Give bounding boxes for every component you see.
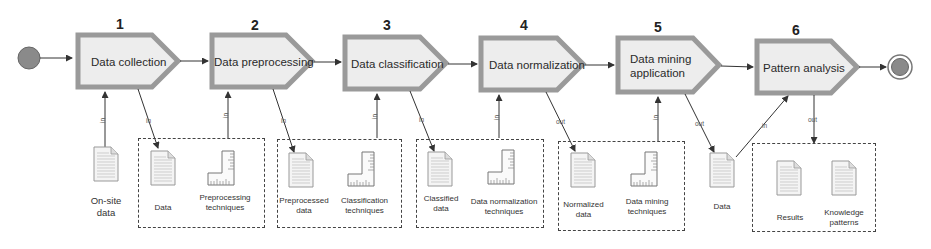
step-5-label-line2: application	[630, 66, 691, 80]
knowledge-patterns-caption: Knowledge patterns	[823, 208, 865, 228]
knowledge-patterns-line1: Knowledge	[823, 208, 865, 218]
start-circle-icon	[18, 47, 40, 69]
in-label-step4: in	[493, 115, 500, 120]
onsite-data-document-icon	[94, 147, 118, 181]
onsite-data-line1: On-site	[84, 195, 128, 207]
step-1-number: 1	[110, 16, 130, 32]
onsite-data-line2: data	[84, 207, 128, 219]
preprocessing-techniques-line2: techniques	[195, 203, 255, 213]
normalized-data-line2: data	[561, 210, 606, 220]
in-label-step1-out: in	[146, 117, 151, 124]
mining-techniques-line2: techniques	[622, 207, 672, 217]
in-label-step6: in	[762, 122, 767, 129]
step-2-number: 2	[245, 17, 265, 33]
data-caption: Data	[143, 203, 183, 213]
step-6-label: Pattern analysis	[763, 61, 845, 75]
in-label-step2-out: in	[281, 117, 286, 124]
step-4-number: 4	[514, 17, 534, 33]
preprocessed-data-line1: Preprocessed	[278, 196, 330, 206]
mined-data-caption: Data	[705, 202, 739, 212]
normalization-techniques-line2: techniques	[467, 207, 541, 217]
mined-data-document-icon	[710, 153, 734, 187]
classified-data-line1: Classified	[421, 194, 461, 204]
out-label-step6: out	[808, 116, 817, 123]
group-box-preprocessing-inputs	[138, 138, 265, 228]
step-5-label: Data mining application	[630, 52, 691, 80]
normalized-data-caption: Normalized data	[561, 200, 606, 220]
in-label-step2: in	[222, 113, 229, 118]
step-6-number: 6	[786, 22, 806, 38]
preprocessing-techniques-caption: Preprocessing techniques	[195, 193, 255, 213]
step-3-number: 3	[377, 17, 397, 33]
step-2-label: Data preprocessing	[214, 55, 314, 69]
mining-techniques-caption: Data mining techniques	[622, 197, 672, 217]
in-label-step3-out: in	[419, 116, 424, 123]
in-label-step1: in	[99, 118, 106, 123]
in-label-step3: in	[371, 114, 378, 119]
classification-techniques-line1: Classification	[337, 196, 392, 206]
step-5-number: 5	[648, 19, 668, 35]
out-label-step4: out	[556, 118, 565, 125]
knowledge-patterns-line2: patterns	[823, 218, 865, 228]
normalization-techniques-line1: Data normalization	[467, 197, 541, 207]
step-3-label: Data classification	[351, 57, 444, 71]
preprocessed-data-caption: Preprocessed data	[278, 196, 330, 216]
mining-techniques-line1: Data mining	[622, 197, 672, 207]
classified-data-line2: data	[421, 204, 461, 214]
classification-techniques-caption: Classification techniques	[337, 196, 392, 216]
classification-techniques-line2: techniques	[337, 206, 392, 216]
preprocessed-data-line2: data	[278, 206, 330, 216]
normalization-techniques-caption: Data normalization techniques	[467, 197, 541, 217]
step-1-label: Data collection	[91, 55, 166, 69]
step-5-label-line1: Data mining	[630, 52, 691, 66]
step-4-label: Data normalization	[489, 58, 585, 72]
preprocessing-techniques-line1: Preprocessing	[195, 193, 255, 203]
classified-data-caption: Classified data	[421, 194, 461, 214]
onsite-data-caption: On-site data	[84, 195, 128, 219]
out-label-step5: out	[695, 120, 704, 127]
normalized-data-line1: Normalized	[561, 200, 606, 210]
in-label-step5: in	[652, 115, 659, 120]
results-caption: Results	[772, 213, 808, 223]
